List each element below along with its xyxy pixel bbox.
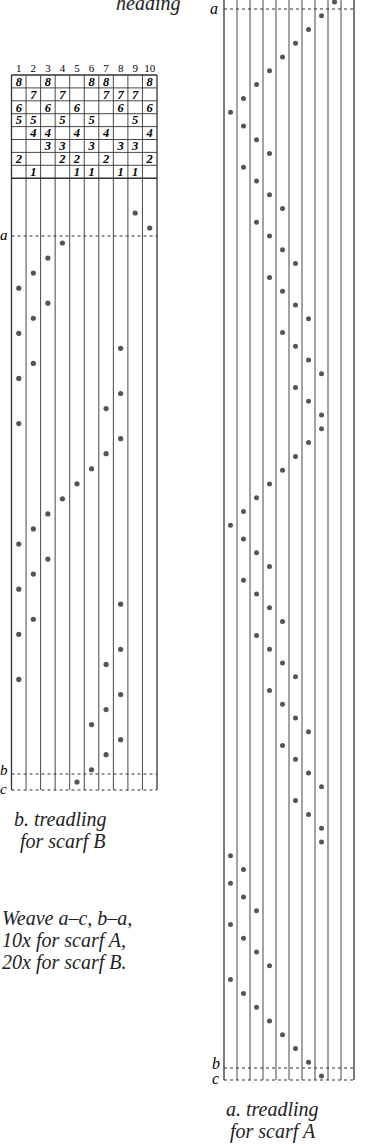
treadling-dot — [254, 179, 259, 184]
tieup-number: 3 — [87, 139, 94, 153]
treadling-dot — [103, 662, 108, 667]
treadling-dot — [267, 688, 272, 693]
treadling-dot — [319, 426, 324, 431]
tieup-number: 5 — [16, 113, 22, 127]
tieup-number: 2 — [15, 152, 22, 166]
treadling-dot — [319, 13, 324, 18]
treadling-dot — [16, 286, 21, 291]
tieup-number: 8 — [45, 75, 52, 89]
tieup-number: 2 — [146, 152, 153, 166]
treadling-dot — [228, 853, 233, 858]
treadling-dot — [267, 151, 272, 156]
treadling-dot — [319, 839, 324, 844]
treadling-dot — [103, 707, 108, 712]
treadling-dot — [280, 660, 285, 665]
tieup-number: 1 — [132, 165, 138, 179]
treadling-dot — [241, 96, 246, 101]
treadling-dot — [293, 454, 298, 459]
treadling-dot — [241, 991, 246, 996]
tieup-number: 3 — [117, 139, 124, 153]
treadling-dot — [31, 316, 36, 321]
column-number: 2 — [31, 62, 37, 74]
treadling-dot — [267, 275, 272, 280]
treadling-dot — [280, 289, 285, 294]
column-number: 8 — [118, 62, 124, 74]
tieup-number: 1 — [74, 165, 80, 179]
treadling-dot — [60, 240, 65, 245]
marker-a-label: a — [0, 227, 8, 243]
column-number: 7 — [103, 62, 109, 74]
treadling-dot — [293, 1046, 298, 1051]
treadling-dot — [319, 1074, 324, 1079]
treadling-dot — [45, 255, 50, 260]
treadling-dot — [306, 771, 311, 776]
marker-a-label: a — [210, 0, 218, 17]
treadling-dot — [293, 798, 298, 803]
treadling-dot — [31, 271, 36, 276]
treadling-dot — [45, 511, 50, 516]
treadling-dot — [31, 572, 36, 577]
treadling-dot — [241, 895, 246, 900]
treadling-dot — [306, 1060, 311, 1065]
treadling-dot — [118, 602, 123, 607]
treadling-dot — [293, 385, 298, 390]
treadling-dot — [118, 391, 123, 396]
treadling-dot — [293, 344, 298, 349]
treadling-dot — [228, 523, 233, 528]
tieup-number: 4 — [44, 126, 51, 140]
treadling-dot — [254, 82, 259, 87]
tieup-number: 8 — [103, 75, 110, 89]
treadling-dot — [306, 729, 311, 734]
treadling-dot — [89, 722, 94, 727]
tieup-number: 6 — [147, 101, 154, 115]
tieup-number: 4 — [146, 126, 153, 140]
treadling-dot — [293, 674, 298, 679]
treadling-dot — [267, 963, 272, 968]
tieup-number: 3 — [44, 139, 51, 153]
treadling-dot — [254, 137, 259, 142]
tieup-number: 2 — [58, 152, 65, 166]
treadling-dot — [45, 556, 50, 561]
treadling-dot — [16, 677, 21, 682]
tieup-number: 6 — [45, 101, 52, 115]
treadling-dot — [60, 496, 65, 501]
marker-c-label: c — [0, 781, 7, 797]
treadling-dot — [280, 468, 285, 473]
treadling-dot — [319, 371, 324, 376]
treadling-dot — [319, 413, 324, 418]
treadling-dot — [241, 165, 246, 170]
treadling-dot — [319, 784, 324, 789]
treadling-dot — [280, 619, 285, 624]
treadling-dot — [118, 436, 123, 441]
treadling-dot — [306, 399, 311, 404]
tieup-number: 5 — [59, 113, 65, 127]
treadling-dot — [241, 936, 246, 941]
tieup-number: 6 — [118, 101, 125, 115]
tieup-number: 2 — [73, 152, 80, 166]
treadling-dot — [293, 41, 298, 46]
treadling-dot — [16, 587, 21, 592]
treadling-dot — [280, 247, 285, 252]
treadling-dot — [89, 767, 94, 772]
tieup-number: 7 — [118, 88, 125, 102]
treadling-dot — [228, 881, 233, 886]
treadling-dot — [306, 316, 311, 321]
treadling-dot — [74, 481, 79, 486]
treadling-dot — [16, 421, 21, 426]
treadling-dot — [280, 55, 285, 60]
marker-c-label: c — [212, 1070, 219, 1087]
treadling-dot — [31, 361, 36, 366]
treadling-dot — [31, 617, 36, 622]
treadling-dot — [31, 526, 36, 531]
treadling-dot — [254, 220, 259, 225]
treadling-dot — [16, 331, 21, 336]
column-number: 4 — [60, 62, 66, 74]
treadling-dot — [228, 110, 233, 115]
treadling-dot — [267, 481, 272, 486]
tieup-number: 8 — [16, 75, 23, 89]
treadling-dot — [280, 702, 285, 707]
tieup-number: 7 — [132, 88, 139, 102]
column-number: 5 — [74, 62, 80, 74]
treadling-dot — [89, 466, 94, 471]
treadling-dot — [254, 950, 259, 955]
